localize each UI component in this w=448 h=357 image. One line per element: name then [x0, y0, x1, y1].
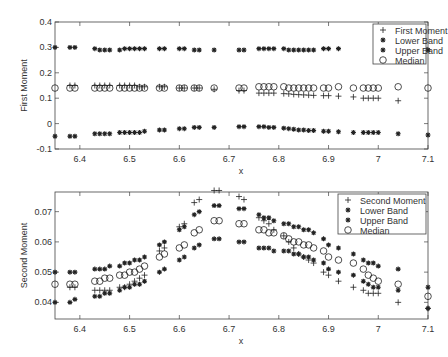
data-point	[197, 47, 202, 52]
data-point	[266, 221, 272, 227]
data-point	[311, 92, 317, 98]
data-point	[217, 203, 222, 208]
data-point	[306, 227, 311, 232]
data-point	[396, 288, 401, 293]
data-point	[326, 272, 332, 278]
data-point	[67, 45, 72, 50]
data-point	[107, 291, 112, 296]
data-point	[162, 46, 167, 51]
data-point	[311, 230, 316, 235]
y-tick-label: 0.3	[39, 42, 52, 52]
data-point	[321, 261, 326, 266]
data-point	[350, 260, 357, 267]
data-point	[122, 261, 127, 266]
data-point	[281, 221, 286, 226]
data-point	[182, 224, 187, 229]
data-point	[306, 255, 311, 260]
data-point	[197, 125, 202, 130]
x-tick-label: 6.7	[223, 154, 236, 164]
legend-marker-icon	[381, 48, 386, 53]
data-point	[142, 279, 147, 284]
data-point	[291, 127, 296, 132]
data-point	[305, 242, 312, 249]
data-point	[92, 294, 97, 299]
data-point	[97, 131, 102, 136]
data-point	[157, 242, 162, 247]
data-point	[256, 212, 261, 217]
data-point	[266, 215, 271, 220]
y-axis-label: First Moment	[19, 59, 29, 112]
data-point	[336, 245, 341, 250]
y-tick-label: 0.05	[34, 267, 52, 277]
data-point	[351, 130, 356, 135]
data-point	[286, 91, 292, 97]
data-point	[310, 245, 317, 252]
data-point	[281, 248, 286, 253]
data-point	[122, 46, 127, 51]
data-point	[301, 127, 306, 132]
data-point	[212, 203, 217, 208]
data-point	[217, 236, 222, 241]
data-point	[216, 217, 223, 224]
series-lower-band	[53, 124, 431, 139]
x-tick-label: 6.4	[74, 154, 87, 164]
y-tick-label: 0.07	[34, 207, 52, 217]
data-point	[97, 294, 102, 299]
data-point	[426, 306, 431, 311]
data-point	[291, 251, 296, 256]
data-point	[335, 278, 341, 284]
x-tick-label: 6.9	[322, 154, 335, 164]
data-point	[176, 245, 183, 252]
data-point	[306, 47, 311, 52]
data-point	[361, 258, 366, 263]
data-point	[137, 258, 142, 263]
data-point	[271, 248, 276, 253]
data-point	[53, 270, 58, 275]
y-tick-label: 0.2	[39, 68, 52, 78]
data-point	[162, 267, 167, 272]
data-point	[365, 272, 372, 279]
legend: First MomentLower BandUpper BandMedian	[373, 24, 448, 66]
data-point	[261, 226, 268, 233]
y-tick-label: 0.4	[39, 17, 52, 27]
data-point	[301, 47, 306, 52]
data-point	[137, 275, 143, 281]
data-point	[142, 46, 147, 51]
data-point	[320, 248, 327, 255]
data-point	[286, 47, 291, 52]
data-point	[325, 254, 332, 261]
data-point	[117, 47, 122, 52]
data-point	[127, 46, 132, 51]
x-tick-label: 7	[376, 154, 381, 164]
data-point	[212, 47, 217, 52]
data-point	[291, 224, 296, 229]
data-point	[132, 258, 137, 263]
data-point	[117, 264, 122, 269]
data-point	[107, 264, 112, 269]
data-point	[291, 47, 296, 52]
legend-marker-icon	[346, 218, 351, 223]
data-point	[156, 254, 163, 261]
data-point	[137, 130, 142, 135]
data-point	[127, 130, 132, 135]
data-point	[53, 300, 58, 305]
data-point	[102, 267, 107, 272]
data-point	[370, 275, 377, 282]
legend-label: Median	[395, 56, 425, 66]
x-tick-label: 7.1	[422, 324, 435, 334]
data-point	[311, 47, 316, 52]
data-point	[375, 95, 381, 101]
data-point	[256, 245, 261, 250]
data-point	[127, 261, 132, 266]
data-point	[286, 221, 291, 226]
series-median	[52, 83, 432, 91]
data-point	[97, 47, 102, 52]
data-point	[271, 46, 276, 51]
data-point	[371, 261, 376, 266]
data-point	[371, 285, 376, 290]
data-point	[376, 264, 381, 269]
data-point	[102, 291, 107, 296]
data-point	[237, 47, 242, 52]
legend-label: Upper Band	[360, 216, 408, 226]
data-point	[271, 90, 277, 96]
